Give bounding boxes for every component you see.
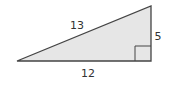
vertical-leg-label: 5 [155, 30, 162, 43]
horizontal-leg-label: 12 [81, 67, 95, 80]
triangle-diagram: 13 5 12 [0, 0, 169, 85]
triangle [17, 6, 151, 61]
hypotenuse-label: 13 [70, 19, 84, 32]
